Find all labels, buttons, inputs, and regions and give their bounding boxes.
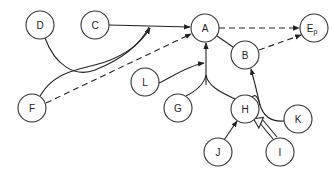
svg-text:I: I	[279, 147, 282, 158]
svg-text:B: B	[242, 50, 249, 61]
edge-i-to-h-double	[253, 117, 277, 139]
svg-text:G: G	[174, 103, 182, 114]
node-k: K	[284, 105, 312, 133]
node-g: G	[164, 94, 192, 122]
edge-g-to-trunk	[186, 75, 206, 96]
node-i: I	[266, 138, 294, 166]
node-h: H	[231, 95, 259, 123]
edge-h-to-trunk	[206, 75, 235, 99]
svg-text:K: K	[295, 114, 302, 125]
causal-graph-diagram: D C A Ep B L G H K F J I	[0, 0, 332, 178]
node-j: J	[204, 138, 232, 166]
svg-text:A: A	[202, 23, 209, 34]
svg-text:L: L	[142, 77, 148, 88]
svg-text:H: H	[241, 104, 248, 115]
edge-l-to-a	[159, 63, 204, 83]
node-c: C	[81, 11, 109, 39]
node-l: L	[131, 68, 159, 96]
svg-text:D: D	[36, 20, 43, 31]
edge-j-to-h	[224, 121, 237, 140]
edge-a-to-b	[217, 36, 233, 47]
edge-c-to-a	[109, 25, 190, 27]
node-f: F	[18, 94, 46, 122]
node-d: D	[26, 11, 54, 39]
svg-text:F: F	[29, 103, 35, 114]
edges	[40, 25, 301, 140]
node-b: B	[231, 41, 259, 69]
edge-b-to-ep-dashed	[259, 35, 301, 50]
svg-text:C: C	[91, 20, 98, 31]
node-a: A	[191, 14, 219, 42]
svg-text:J: J	[216, 147, 221, 158]
node-ep: Ep	[300, 14, 328, 42]
